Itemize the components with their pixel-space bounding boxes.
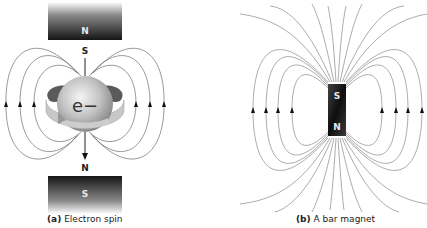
bar-magnet-bottom-label: N (333, 122, 341, 132)
caption-a: (a) Electron spin (47, 214, 123, 224)
bottom-magnet-pole-label: S (82, 189, 88, 199)
spin-arrow-icon (82, 153, 88, 160)
electron-top-pole-label: S (82, 46, 88, 56)
caption-b: (b) A bar magnet (296, 214, 375, 224)
electron-bottom-pole-label: N (81, 163, 89, 173)
top-magnet-pole-label: N (81, 26, 89, 36)
caption-b-text: A bar magnet (314, 214, 376, 224)
electron-label: e− (72, 95, 98, 116)
caption-a-text: Electron spin (64, 214, 122, 224)
panel-b-bar-magnet (240, 4, 427, 212)
caption-b-letter: (b) (296, 214, 311, 224)
caption-a-letter: (a) (47, 214, 61, 224)
diagram-canvas: N S S N e− S N (0, 0, 427, 228)
bar-magnet-top-label: S (334, 91, 340, 101)
